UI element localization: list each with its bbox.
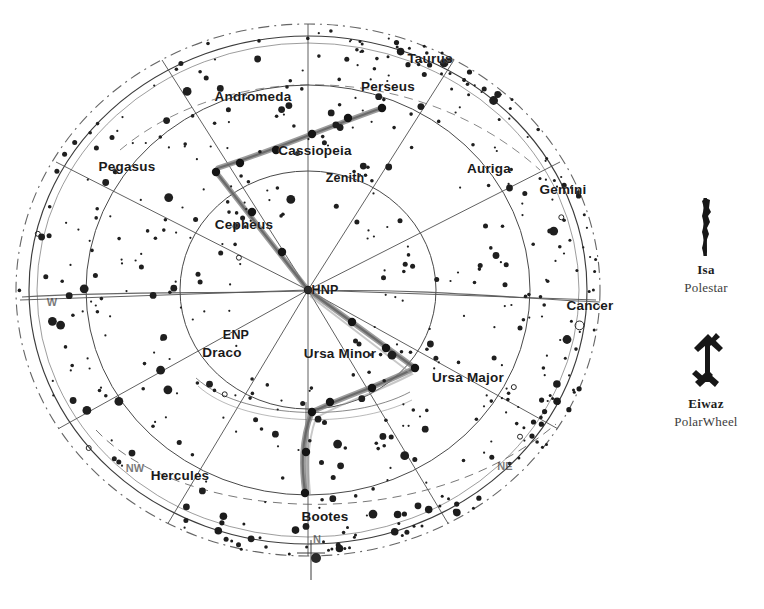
eiwaz-rune-name: Eiwaz	[648, 396, 764, 412]
star	[509, 107, 512, 110]
asterism-star	[344, 114, 352, 122]
asterism-star	[382, 344, 390, 352]
star	[295, 151, 300, 156]
star	[579, 331, 581, 333]
star	[264, 545, 268, 549]
star	[337, 78, 341, 82]
star	[370, 78, 372, 80]
star	[230, 185, 232, 187]
star	[129, 450, 136, 457]
star	[433, 367, 435, 369]
star	[382, 98, 386, 102]
star	[370, 179, 374, 183]
star	[235, 345, 237, 347]
star	[183, 504, 190, 511]
star	[389, 434, 394, 439]
star	[577, 386, 582, 391]
star	[402, 425, 404, 427]
asterism-star	[301, 489, 309, 497]
star	[476, 496, 481, 501]
star	[198, 280, 203, 285]
star	[56, 321, 65, 330]
star	[154, 236, 158, 240]
star	[352, 373, 356, 377]
star	[504, 262, 509, 267]
star	[96, 310, 100, 314]
asterism-star	[272, 146, 280, 154]
star	[65, 222, 67, 224]
star	[425, 51, 429, 55]
star	[163, 117, 170, 124]
star	[522, 191, 527, 196]
star	[178, 61, 183, 66]
star	[292, 526, 300, 534]
star	[500, 261, 502, 263]
star	[388, 38, 390, 40]
star	[545, 179, 547, 181]
star	[328, 110, 335, 117]
star	[554, 260, 556, 262]
star	[239, 263, 241, 265]
asterism-star	[326, 398, 334, 406]
star	[403, 262, 408, 267]
star	[254, 56, 261, 63]
star	[467, 69, 472, 74]
star	[474, 84, 476, 86]
star	[588, 290, 591, 293]
star	[434, 277, 439, 282]
asterism-star	[248, 208, 256, 216]
star	[506, 185, 513, 192]
star	[361, 43, 364, 46]
star	[116, 459, 121, 464]
star	[359, 51, 361, 53]
star	[342, 516, 344, 518]
star	[386, 479, 388, 481]
star	[169, 358, 171, 360]
star	[300, 87, 304, 91]
star	[553, 179, 556, 182]
star	[367, 237, 369, 239]
star	[303, 523, 310, 530]
star	[265, 99, 267, 101]
star	[557, 400, 560, 403]
star	[226, 147, 228, 149]
star	[121, 262, 123, 264]
star	[192, 318, 194, 320]
star	[244, 202, 246, 204]
star	[493, 326, 495, 328]
star	[116, 130, 118, 132]
star	[117, 237, 121, 241]
star	[70, 369, 72, 371]
star	[64, 345, 68, 349]
star	[563, 335, 572, 344]
star	[250, 377, 254, 381]
star	[478, 263, 483, 268]
star	[564, 357, 567, 360]
star	[394, 40, 399, 45]
star	[475, 417, 479, 421]
star	[177, 440, 182, 445]
star	[285, 85, 289, 89]
star	[93, 273, 98, 278]
star	[275, 114, 279, 118]
star	[213, 389, 217, 393]
star	[370, 353, 374, 357]
star	[419, 415, 421, 417]
star	[121, 259, 123, 261]
star	[318, 32, 320, 34]
star	[544, 374, 546, 376]
star	[329, 495, 336, 502]
star	[496, 150, 498, 152]
star	[272, 431, 279, 438]
star	[280, 400, 282, 402]
asterism-star	[212, 168, 220, 176]
star	[193, 217, 198, 222]
star	[508, 462, 512, 466]
star	[145, 142, 147, 144]
star	[109, 315, 111, 317]
star	[259, 536, 262, 539]
star	[180, 307, 182, 309]
star	[203, 188, 205, 190]
star	[375, 57, 379, 61]
star	[531, 419, 536, 424]
